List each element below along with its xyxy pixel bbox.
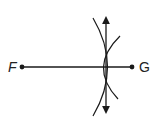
point-g — [130, 65, 135, 70]
label-g: G — [139, 59, 150, 75]
point-f — [20, 65, 25, 70]
label-f: F — [8, 59, 18, 75]
perpendicular-bisector-diagram: F G — [0, 0, 155, 125]
